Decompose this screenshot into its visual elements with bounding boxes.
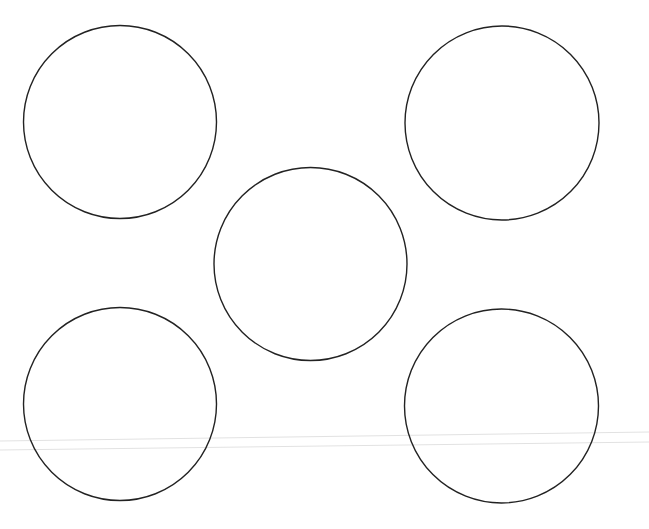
guide-line-1	[0, 432, 649, 441]
circle-bottom-right	[405, 309, 599, 503]
circle-top-right	[405, 26, 599, 220]
circle-group	[24, 26, 600, 504]
diagram-canvas	[0, 0, 649, 529]
circle-center	[214, 168, 407, 361]
circles-drawing	[0, 0, 649, 529]
faint-guide-lines	[0, 432, 649, 450]
guide-line-2	[0, 442, 649, 450]
circle-top-left	[24, 26, 217, 219]
circle-bottom-left	[24, 308, 217, 501]
